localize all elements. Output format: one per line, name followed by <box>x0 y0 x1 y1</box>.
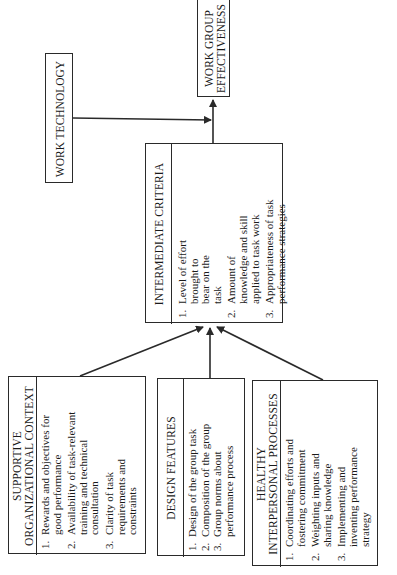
list-item: Group norms about performance process <box>212 383 235 537</box>
intermediate-criteria-list: Level of effort brought to bear on the t… <box>172 144 287 324</box>
list-item: Appropriateness of task performance stra… <box>264 184 287 304</box>
arrow-technology-to-effectiveness <box>73 118 211 120</box>
design-features-title: DESIGN FEATURES <box>165 416 177 519</box>
design-features-box: DESIGN FEATURES Design of the group task… <box>157 378 245 556</box>
work-technology-label: WORK TECHNOLOGY <box>54 61 66 177</box>
list-item: Coordinating efforts and fostering commi… <box>284 421 307 547</box>
healthy-processes-box: HEALTHY INTERPERSONAL PROCESSES Coordina… <box>252 380 378 566</box>
list-item: Weighting inputs and sharing knowledge <box>310 421 333 547</box>
healthy-processes-list: Coordinating efforts and fostering commi… <box>281 381 371 567</box>
list-item: Implementing and inventing performance s… <box>336 421 371 547</box>
supportive-context-box: SUPPORTIVE ORGANIZATIONAL CONTEXT Reward… <box>8 376 146 554</box>
arrow-supportive-to-criteria <box>80 327 203 376</box>
list-item: Level of effort brought to bear on the t… <box>177 184 223 304</box>
supportive-context-list: Rewards and objectives for good performa… <box>37 377 139 555</box>
intermediate-criteria-title: INTERMEDIATE CRITERIA <box>153 163 165 305</box>
arrow-healthy-to-criteria <box>217 327 323 380</box>
effectiveness-label-line2: EFFECTIVENESS <box>215 4 227 93</box>
list-item: Composition of the group <box>200 383 212 537</box>
list-item: Availability of task-relevant training a… <box>66 407 101 535</box>
list-item: Amount of knowledge and skill applied to… <box>226 184 261 304</box>
healthy-title-line2: INTERPERSONAL PROCESSES <box>267 393 279 554</box>
list-item: Design of the group task <box>187 383 199 537</box>
work-group-effectiveness-box: WORK GROUP EFFECTIVENESS <box>197 0 230 97</box>
intermediate-criteria-box: INTERMEDIATE CRITERIA Level of effort br… <box>145 143 283 323</box>
list-item: Clarity of task requirements and constra… <box>104 407 139 535</box>
supportive-title-line2: ORGANIZATIONAL CONTEXT <box>23 386 35 546</box>
effectiveness-label-line1: WORK GROUP <box>203 10 215 87</box>
design-features-list: Design of the group task Composition of … <box>184 379 235 557</box>
healthy-title-line1: HEALTHY <box>255 447 267 501</box>
supportive-title-line1: SUPPORTIVE <box>11 431 23 501</box>
work-technology-box: WORK TECHNOLOGY <box>45 53 73 183</box>
list-item: Rewards and objectives for good performa… <box>40 407 63 535</box>
